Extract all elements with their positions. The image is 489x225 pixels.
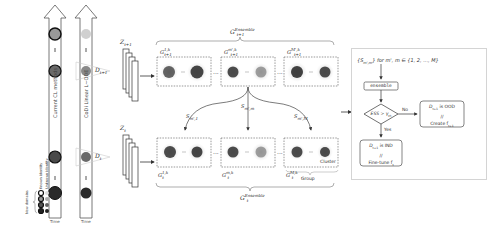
- label-d-next: Dt+1: [95, 66, 107, 75]
- legend-known-identity: Known identity: [39, 163, 43, 189]
- ood-line-2: //: [420, 113, 464, 120]
- time-axis-left: Time: [50, 219, 60, 224]
- ind-line-1: Dt+1 is IND: [360, 142, 402, 152]
- z-stack-next: [123, 49, 138, 101]
- ood-line-1: Dt+1 is OOD: [420, 103, 464, 113]
- bottom-ensemble-title: GEnsemblet: [240, 193, 248, 203]
- similarity-label-m: Sm',m: [241, 103, 254, 111]
- top-ensemble-brace: [156, 37, 334, 45]
- z-stack-curr: [123, 135, 138, 187]
- top-group-M-label: GM',kt+1: [287, 47, 301, 57]
- bottom-ellipsis-2: ...: [277, 148, 283, 155]
- legend-dots: [33, 191, 49, 214]
- ood-line-3: Create ft+1: [420, 120, 464, 130]
- top-ensemble-title: GEnsemblet+1: [230, 27, 244, 37]
- bottom-group-1-label: G1,kt: [158, 170, 164, 180]
- bottom-ellipsis-1: ...: [213, 148, 219, 155]
- ensemble-box: ensemble: [364, 83, 398, 88]
- ind-box: Dt+1 is IND // Fine-tune ft: [360, 142, 402, 169]
- similarity-label-M: Sm',M: [294, 113, 308, 121]
- timeline-right-label: CoDi Linear L~ODE: [83, 70, 89, 118]
- ind-line-2: //: [360, 152, 402, 159]
- similarity-label-1: Sm',1: [186, 113, 198, 121]
- label-z-curr: Zt: [120, 124, 126, 133]
- cluster-label: Cluster: [320, 159, 336, 164]
- top-group-m-label: Gm',kt+1: [224, 47, 238, 57]
- bottom-group-boxes: [157, 138, 338, 167]
- top-ellipsis-2: ...: [277, 68, 283, 75]
- ood-box: Dt+1 is OOD // Create ft+1: [420, 103, 464, 130]
- bottom-group-m-label: Gm,kt: [222, 170, 229, 180]
- ind-line-3: Fine-tune ft: [360, 159, 402, 169]
- label-z-next: Zt+1: [120, 38, 132, 47]
- top-ellipsis-1: ...: [213, 68, 219, 75]
- legend-unknown-identity: Unknown identity: [45, 158, 49, 189]
- decision-diamond: ESS > γth: [364, 111, 398, 118]
- top-group-boxes: [157, 57, 338, 86]
- legend-group-label: New domains: [25, 190, 29, 214]
- no-label: No: [402, 107, 408, 112]
- top-group-1-label: G1,kt+1: [160, 47, 172, 57]
- yes-label: Yes: [384, 127, 391, 132]
- time-axis-right: Time: [81, 219, 91, 224]
- group-label: Group: [301, 176, 315, 181]
- label-d-curr: Dt: [95, 152, 101, 161]
- bottom-ensemble-brace: [156, 183, 334, 191]
- flowchart-input-text: {Sm',m} for m', m ∈ {1, 2, ..., M}: [357, 57, 439, 65]
- bottom-group-M-label: GM,kt: [286, 170, 293, 180]
- timeline-left-label: Current CL methods: [52, 68, 58, 118]
